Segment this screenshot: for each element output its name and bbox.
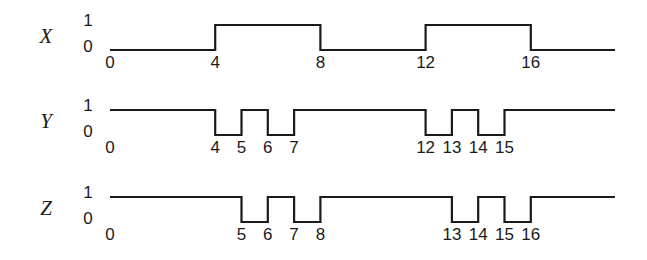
waveform-path <box>110 197 615 222</box>
waveform-z <box>0 172 647 257</box>
tick-label: 15 <box>495 139 514 156</box>
tick-label: 4 <box>210 54 219 71</box>
signal-row-x: X 1 0 0481216 <box>0 0 647 85</box>
tick-label: 8 <box>316 226 325 243</box>
timing-diagram-figure: X 1 0 0481216 Y 1 0 0456712131415 Z 1 0 … <box>0 0 647 260</box>
tick-label: 6 <box>263 226 272 243</box>
tick-label: 12 <box>416 139 435 156</box>
tick-label: 0 <box>105 54 114 71</box>
tick-label: 8 <box>316 54 325 71</box>
tick-label: 14 <box>469 226 488 243</box>
tick-label: 7 <box>289 139 298 156</box>
tick-label: 12 <box>416 54 435 71</box>
tick-label: 0 <box>105 139 114 156</box>
waveform-x <box>0 0 647 85</box>
tick-label: 6 <box>263 139 272 156</box>
tick-label: 13 <box>442 139 461 156</box>
signal-row-z: Z 1 0 0567813141516 <box>0 172 647 257</box>
waveform-y <box>0 85 647 170</box>
signal-row-y: Y 1 0 0456712131415 <box>0 85 647 170</box>
tick-label: 5 <box>237 139 246 156</box>
tick-label: 4 <box>210 139 219 156</box>
waveform-path <box>110 110 615 135</box>
tick-label: 0 <box>105 226 114 243</box>
tick-label: 13 <box>442 226 461 243</box>
waveform-path <box>110 25 615 50</box>
tick-label: 5 <box>237 226 246 243</box>
tick-label: 16 <box>521 226 540 243</box>
tick-label: 16 <box>521 54 540 71</box>
tick-label: 7 <box>289 226 298 243</box>
tick-label: 15 <box>495 226 514 243</box>
tick-label: 14 <box>469 139 488 156</box>
